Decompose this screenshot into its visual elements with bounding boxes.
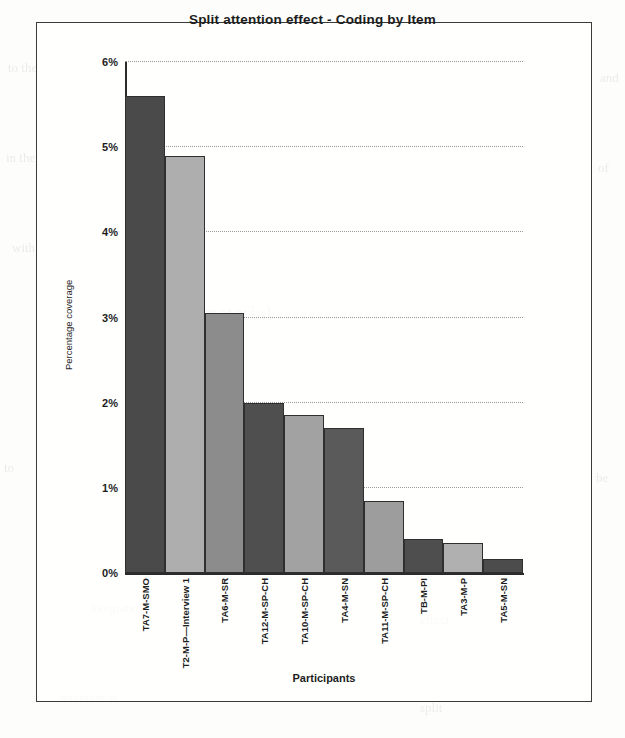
x-tick-cell: TA7-M-SMO — [125, 576, 165, 671]
bar[interactable] — [125, 96, 165, 573]
x-tick-cell: TB-M-PI — [404, 576, 444, 671]
bar[interactable] — [284, 415, 324, 573]
x-tick-cell: TA3-M-P — [443, 576, 483, 671]
y-tick-label: 3% — [102, 312, 118, 324]
x-axis-line — [125, 573, 524, 575]
bar[interactable] — [205, 313, 245, 573]
x-tick-labels: TA7-M-SMOT2-M-P—Interview 1TA6-M-SRTA12-… — [125, 576, 523, 671]
x-tick-label: TA10-M-SP-CH — [299, 578, 310, 644]
x-tick-label: TA12-M-SP-CH — [259, 578, 270, 644]
y-tick-label: 2% — [102, 397, 118, 409]
x-tick-label: TA7-M-SMO — [139, 578, 150, 631]
x-tick-label: TA3-M-P — [458, 578, 469, 616]
x-tick-cell: TA5-M-SN — [483, 576, 523, 671]
x-tick-label: T2-M-P—Interview 1 — [179, 578, 190, 668]
bar[interactable] — [364, 501, 404, 573]
bar[interactable] — [404, 539, 444, 573]
y-tick-label: 0% — [102, 567, 118, 579]
x-tick-label: TA5-M-SN — [498, 578, 509, 623]
x-axis-title: Participants — [125, 672, 523, 684]
x-tick-cell: TA6-M-SR — [205, 576, 245, 671]
y-tick-label: 6% — [102, 56, 118, 68]
bar[interactable] — [483, 559, 523, 573]
y-tick-label: 1% — [102, 482, 118, 494]
x-tick-label: TA6-M-SR — [219, 578, 230, 623]
y-axis-title: Percentage coverage — [63, 280, 74, 370]
y-tick-label: 5% — [102, 141, 118, 153]
bar[interactable] — [165, 156, 205, 573]
x-tick-label: TA11-M-SP-CH — [378, 578, 389, 644]
y-tick-label: 4% — [102, 226, 118, 238]
plot-area: 0%1%2%3%4%5%6% — [125, 62, 523, 573]
chart-title: Split attention effect - Coding by Item — [0, 12, 625, 27]
bar[interactable] — [324, 428, 364, 573]
x-tick-label: TB-M-PI — [418, 578, 429, 614]
x-tick-cell: TA4-M-SN — [324, 576, 364, 671]
x-tick-label: TA4-M-SN — [338, 578, 349, 623]
bar[interactable] — [244, 403, 284, 573]
x-tick-cell: TA11-M-SP-CH — [364, 576, 404, 671]
bar-series — [125, 62, 523, 573]
x-tick-cell: TA10-M-SP-CH — [284, 576, 324, 671]
x-tick-cell: TA12-M-SP-CH — [244, 576, 284, 671]
bar[interactable] — [443, 543, 483, 573]
x-tick-cell: T2-M-P—Interview 1 — [165, 576, 205, 671]
